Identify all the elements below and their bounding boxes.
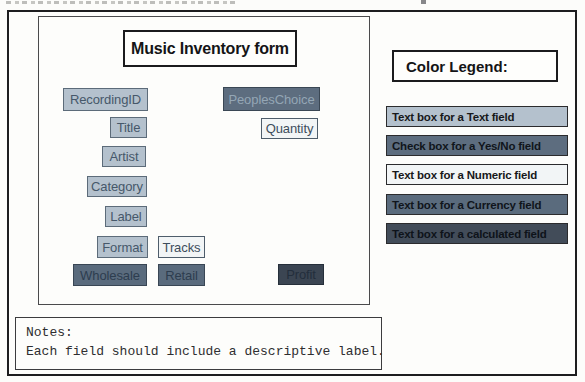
notes-body: Each field should include a descriptive … (26, 342, 371, 361)
legend-item-yesno-field: Check box for a Yes/No field (386, 135, 568, 156)
field-tracks: Tracks (158, 236, 205, 258)
field-retail: Retail (158, 264, 205, 286)
legend-item-calculated-field: Text box for a calculated field (386, 223, 568, 244)
field-format: Format (97, 236, 148, 258)
figure-page: Music Inventory form RecordingID Peoples… (0, 0, 585, 382)
field-quantity: Quantity (261, 118, 318, 139)
legend-item-numeric-field: Text box for a Numeric field (386, 164, 568, 185)
legend-item-text-field: Text box for a Text field (386, 106, 568, 127)
field-artist: Artist (102, 146, 146, 167)
legend-title: Color Legend: (392, 50, 558, 82)
notes-box: Notes: Each field should include a descr… (15, 317, 382, 370)
cropped-caption-remnant-mark (421, 0, 426, 4)
form-title: Music Inventory form (123, 30, 297, 67)
field-title: Title (110, 117, 147, 138)
field-wholesale: Wholesale (73, 264, 147, 286)
cropped-caption-remnant (6, 1, 238, 4)
field-recordingid: RecordingID (63, 88, 148, 111)
field-label: Label (105, 206, 147, 227)
field-category: Category (87, 176, 147, 197)
legend-item-currency-field: Text box for a Currency field (386, 194, 568, 215)
field-profit: Profit (278, 264, 324, 285)
field-peopleschoice: PeoplesChoice (223, 87, 320, 111)
notes-heading: Notes: (26, 323, 371, 342)
